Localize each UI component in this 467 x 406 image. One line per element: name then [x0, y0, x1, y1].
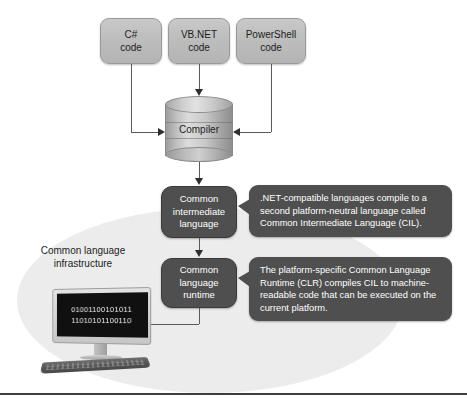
connector-powershell-vertical: [271, 64, 272, 132]
diagram-canvas: Common language infrastructure C# code V…: [0, 0, 467, 406]
connector-powershell-horizontal: [237, 132, 271, 133]
source-box-vbnet-line1: VB.NET: [181, 28, 217, 41]
source-box-vbnet[interactable]: VB.NET code: [168, 18, 230, 64]
callout-cil: .NET-compatible languages compile to a s…: [249, 185, 452, 237]
screen-binary-line2: 11010101100110: [71, 315, 131, 326]
connector-csharp-vertical: [131, 64, 132, 132]
source-box-powershell-line2: code: [260, 41, 282, 54]
cylinder-top-ellipse: [165, 96, 233, 113]
compiler-cylinder[interactable]: Compiler: [165, 96, 233, 162]
source-box-powershell-line1: PowerShell: [246, 28, 297, 41]
bottom-divider: [0, 393, 467, 395]
keyboard-icon: [40, 357, 151, 374]
connector-vbnet-vertical: [199, 64, 200, 92]
connector-cil-to-clr: [199, 238, 200, 250]
monitor-icon: 01001100101011 11010101100110: [52, 287, 151, 345]
monitor-screen: 01001100101011 11010101100110: [57, 292, 148, 338]
region-label: Common language infrastructure: [18, 244, 148, 270]
clr-line1: Common: [180, 264, 219, 277]
cil-line2: intermediate: [173, 206, 225, 219]
region-label-line1: Common language: [41, 245, 126, 256]
source-box-csharp[interactable]: C# code: [100, 18, 162, 64]
screen-binary-line1: 01001100101011: [71, 304, 132, 315]
callout-clr: The platform-specific Common Language Ru…: [249, 257, 452, 321]
region-label-line2: infrastructure: [54, 258, 112, 269]
process-box-common-intermediate-language[interactable]: Common intermediate language: [161, 186, 237, 238]
arrow-csharp-to-compiler: [158, 128, 165, 136]
compiler-label: Compiler: [165, 124, 233, 135]
computer-illustration: 01001100101011 11010101100110: [42, 288, 160, 372]
source-box-vbnet-line2: code: [188, 41, 210, 54]
source-box-csharp-line2: code: [120, 41, 142, 54]
clr-line2: language: [179, 277, 218, 290]
process-box-common-language-runtime[interactable]: Common language runtime: [161, 258, 237, 308]
arrow-cil-to-clr: [195, 250, 203, 257]
cil-line1: Common: [180, 193, 219, 206]
arrow-powershell-to-compiler: [233, 128, 240, 136]
cylinder-band-2: [165, 138, 233, 139]
source-box-csharp-line1: C#: [125, 28, 138, 41]
connector-compiler-to-cil: [199, 162, 200, 178]
cylinder-band-1: [165, 122, 233, 123]
callout-clr-text: The platform-specific Common Language Ru…: [260, 264, 442, 314]
connector-clr-vertical: [199, 308, 200, 324]
clr-line3: runtime: [183, 289, 215, 302]
cylinder-bottom-ellipse: [165, 147, 233, 162]
arrow-compiler-to-cil: [195, 178, 203, 185]
callout-cil-text: .NET-compatible languages compile to a s…: [260, 192, 442, 230]
arrow-vbnet-to-compiler: [195, 89, 203, 96]
cil-line3: language: [179, 218, 218, 231]
source-box-powershell[interactable]: PowerShell code: [236, 18, 306, 64]
